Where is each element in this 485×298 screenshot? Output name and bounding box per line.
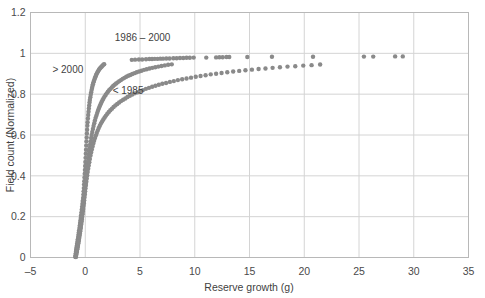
x-tick-label: 5	[137, 265, 143, 277]
data-point	[180, 77, 184, 81]
data-point	[285, 64, 289, 68]
data-point	[167, 56, 171, 60]
data-point	[309, 63, 313, 67]
data-point	[133, 57, 137, 61]
y-tick-label: 1.2	[11, 6, 26, 18]
data-point	[160, 82, 164, 86]
data-point	[250, 67, 254, 71]
x-tick-label: 30	[408, 265, 420, 277]
data-point	[209, 72, 213, 76]
series-annotation: < 1985	[113, 85, 144, 96]
data-point	[172, 79, 176, 83]
data-point	[85, 127, 89, 131]
data-point	[256, 67, 260, 71]
data-point	[227, 55, 231, 59]
data-point	[393, 54, 397, 58]
data-point	[168, 80, 172, 84]
data-point	[204, 55, 208, 59]
x-tick-label: 20	[298, 265, 310, 277]
data-point	[245, 55, 249, 59]
data-point	[188, 56, 192, 60]
data-point	[270, 66, 274, 70]
data-point	[362, 54, 366, 58]
x-tick-label: –5	[25, 265, 37, 277]
data-point	[140, 57, 144, 61]
data-point	[220, 55, 224, 59]
data-point	[184, 76, 188, 80]
data-point	[270, 55, 274, 59]
y-tick-label: 1	[20, 47, 26, 59]
data-point	[198, 74, 202, 78]
data-point	[371, 54, 375, 58]
y-tick-label: 0	[20, 251, 26, 263]
data-point	[102, 62, 106, 66]
data-point	[214, 72, 218, 76]
data-point	[263, 66, 267, 70]
data-point	[194, 75, 198, 79]
data-point	[301, 63, 305, 67]
series-annotation: > 2000	[52, 64, 83, 75]
data-point	[189, 75, 193, 79]
data-point	[191, 55, 195, 59]
data-point	[278, 65, 282, 69]
data-point	[219, 71, 223, 75]
x-tick-label: 0	[82, 265, 88, 277]
chart-figure: –505101520253035 00.20.40.60.811.2 1986 …	[0, 0, 485, 298]
data-point	[84, 139, 88, 143]
data-point	[203, 73, 207, 77]
data-point	[243, 68, 247, 72]
data-point	[170, 62, 174, 66]
x-tick-label: 10	[189, 265, 201, 277]
x-tick-label: 25	[353, 265, 365, 277]
series-annotation: 1986 – 2000	[115, 32, 171, 43]
x-tick-label: 15	[244, 265, 256, 277]
x-axis-title: Reserve growth (g)	[204, 281, 293, 293]
y-axis-title: Field count (Normalized)	[4, 78, 16, 192]
data-point	[176, 78, 180, 82]
data-point	[85, 131, 89, 135]
data-point	[318, 62, 322, 66]
scatter-chart: –505101520253035 00.20.40.60.811.2 1986 …	[0, 0, 485, 298]
data-point	[293, 64, 297, 68]
y-tick-label: 0.2	[11, 210, 26, 222]
data-point	[401, 54, 405, 58]
data-point	[231, 69, 235, 73]
data-point	[237, 69, 241, 73]
data-point	[311, 55, 315, 59]
data-point	[84, 135, 88, 139]
data-point	[164, 81, 168, 85]
chart-background	[0, 0, 485, 298]
data-point	[225, 70, 229, 74]
x-tick-label: 35	[463, 265, 475, 277]
